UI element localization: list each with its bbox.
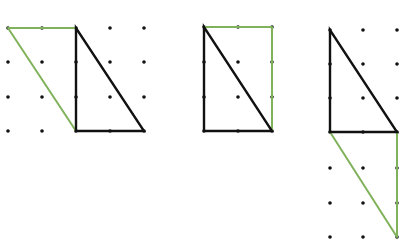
- black-right-triangle: [204, 27, 272, 131]
- figure-1-triangle-transform: [6, 26, 146, 133]
- grid-dot: [6, 95, 10, 99]
- grid-dot: [6, 60, 10, 64]
- grid-dot: [142, 60, 146, 64]
- grid-dot: [40, 95, 44, 99]
- grid-dot: [361, 235, 365, 239]
- grid-dot: [40, 129, 44, 133]
- grid-dot: [6, 129, 10, 133]
- dot-grid: [328, 28, 399, 239]
- grid-dot: [328, 201, 332, 205]
- grid-dot: [361, 96, 365, 100]
- grid-dot: [236, 60, 240, 64]
- grid-dot: [40, 60, 44, 64]
- black-right-triangle: [76, 28, 144, 131]
- figure-2-rectangle-completion: [202, 25, 274, 133]
- green-rotated-triangle: [8, 28, 76, 131]
- grid-dot: [395, 28, 399, 32]
- grid-dot: [361, 28, 365, 32]
- grid-dot: [328, 235, 332, 239]
- dot-grid-diagram: [0, 0, 413, 249]
- grid-dot: [236, 95, 240, 99]
- grid-dot: [142, 26, 146, 30]
- figure-3-triangle-reflection: [328, 28, 399, 239]
- grid-dot: [142, 95, 146, 99]
- grid-dot: [361, 201, 365, 205]
- green-rotated-triangle: [330, 132, 397, 237]
- grid-dot: [108, 26, 112, 30]
- grid-dot: [361, 166, 365, 170]
- grid-dot: [361, 62, 365, 66]
- grid-dot: [395, 96, 399, 100]
- grid-dot: [108, 95, 112, 99]
- black-right-triangle: [330, 30, 397, 132]
- grid-dot: [108, 60, 112, 64]
- grid-dot: [395, 62, 399, 66]
- grid-dot: [328, 166, 332, 170]
